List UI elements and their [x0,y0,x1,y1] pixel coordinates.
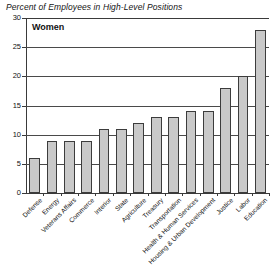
bar [29,158,40,193]
y-tick-label: 0 [17,189,21,197]
x-tick-mark [130,193,131,196]
bar [255,30,266,193]
bar [99,129,110,193]
y-tick-label: 25 [13,43,21,51]
chart-title: Percent of Employees in High-Level Posit… [6,2,182,12]
bar [151,117,162,193]
bar [64,141,75,194]
x-tick-mark [182,193,183,196]
y-tick-label: 15 [13,102,21,110]
plot-area: Women 051015202530 [26,18,269,193]
y-tick-mark [22,76,26,77]
x-tick-mark [269,193,270,196]
bar [186,111,197,193]
x-tick-mark [43,193,44,196]
bar [47,141,58,194]
x-tick-label: Justice [215,197,234,216]
gridline [26,76,269,77]
x-tick-mark [165,193,166,196]
bar [116,129,127,193]
y-tick-mark [22,47,26,48]
bar [81,141,92,194]
bar [203,111,214,193]
gridline [26,135,269,136]
series-label: Women [32,22,64,32]
y-tick-label: 20 [13,73,21,81]
y-tick-label: 30 [13,14,21,22]
gridline [26,106,269,107]
y-tick-mark [22,106,26,107]
y-tick-label: 5 [17,160,21,168]
x-tick-mark [234,193,235,196]
x-tick-mark [252,193,253,196]
x-tick-label: Defense [21,197,43,219]
y-tick-mark [22,164,26,165]
gridline [26,47,269,48]
x-tick-mark [61,193,62,196]
bar [168,117,179,193]
x-tick-label: Interior [94,197,113,216]
y-tick-mark [22,135,26,136]
x-tick-mark [148,193,149,196]
y-tick-label: 10 [13,131,21,139]
gridline [26,164,269,165]
bar [133,123,144,193]
y-tick-mark [22,18,26,19]
x-tick-mark [113,193,114,196]
bar [238,76,249,193]
x-tick-mark [78,193,79,196]
x-tick-mark [217,193,218,196]
bar [220,88,231,193]
x-tick-mark [95,193,96,196]
x-tick-mark [200,193,201,196]
